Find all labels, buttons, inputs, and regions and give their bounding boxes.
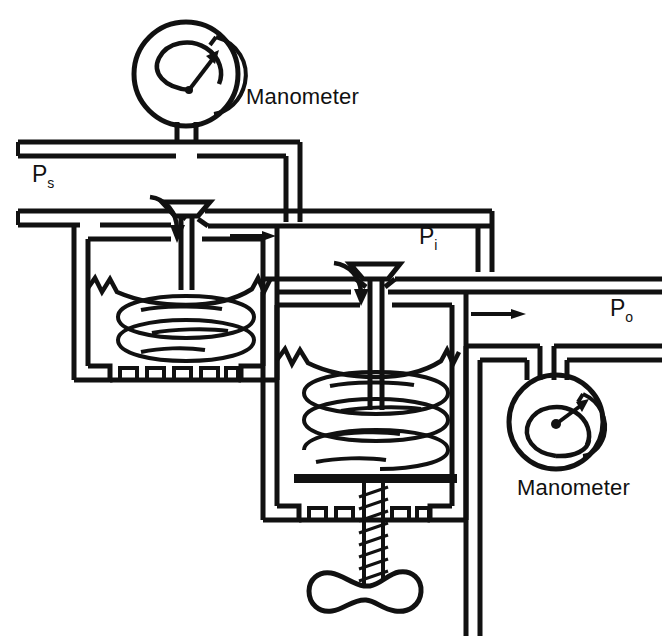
outlet-pressure-subscript: o — [625, 309, 633, 325]
second-stage-spring — [304, 372, 448, 469]
upper-manometer-label: Manometer — [246, 86, 359, 108]
adjusting-screw — [359, 483, 388, 590]
outlet-pressure-label: Po — [610, 297, 633, 324]
supply-pressure-subscript: s — [47, 175, 54, 191]
first-stage-valve — [162, 202, 210, 290]
spring-seat-plate — [294, 474, 457, 483]
diagram-canvas: Manometer Manometer Ps Pi Po — [0, 0, 662, 636]
outlet-pressure-symbol: P — [610, 295, 625, 321]
intermediate-pressure-subscript: i — [434, 237, 437, 253]
supply-pressure-label: Ps — [32, 163, 54, 190]
second-stage-valve-body — [265, 279, 662, 292]
intermediate-pressure-symbol: P — [419, 223, 434, 249]
outlet-flow-arrow — [471, 309, 526, 319]
first-stage-spring — [118, 296, 254, 361]
supply-pressure-symbol: P — [32, 161, 47, 187]
first-stage-diaphragm-chamber — [74, 225, 277, 380]
upper-manometer-gauge — [134, 22, 246, 140]
intermediate-pressure-label: Pi — [419, 225, 437, 252]
second-stage-valve — [350, 264, 400, 410]
lower-manometer-gauge — [509, 375, 605, 469]
lower-manometer-label: Manometer — [517, 477, 630, 499]
